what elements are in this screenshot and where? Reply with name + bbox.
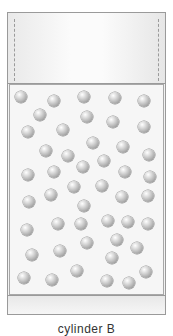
molecule xyxy=(143,149,155,161)
molecule xyxy=(140,266,152,278)
molecule xyxy=(46,274,58,286)
molecule xyxy=(71,265,83,277)
molecule xyxy=(144,171,156,183)
molecule xyxy=(111,234,123,246)
molecule xyxy=(138,121,150,133)
molecule xyxy=(57,124,69,136)
molecule xyxy=(22,169,34,181)
molecule xyxy=(119,166,131,178)
molecule xyxy=(116,191,128,203)
molecule xyxy=(96,180,108,192)
molecule xyxy=(40,145,52,157)
molecule xyxy=(62,150,74,162)
molecule xyxy=(77,161,89,173)
molecule xyxy=(48,95,60,107)
molecule xyxy=(81,237,93,249)
molecule xyxy=(101,275,113,287)
molecule xyxy=(15,91,27,103)
molecule xyxy=(87,137,99,149)
molecule xyxy=(52,218,64,230)
cylinder-base xyxy=(7,295,166,315)
molecule xyxy=(26,249,38,261)
molecule xyxy=(34,109,46,121)
molecule xyxy=(138,95,150,107)
molecule xyxy=(54,245,66,257)
piston-rail-left xyxy=(14,19,15,81)
molecule xyxy=(78,200,90,212)
molecule xyxy=(131,242,143,254)
molecule xyxy=(23,196,35,208)
molecule xyxy=(117,141,129,153)
piston-rail-right xyxy=(158,19,159,81)
molecule xyxy=(107,116,119,128)
piston xyxy=(7,12,166,84)
molecule xyxy=(102,215,114,227)
molecule xyxy=(123,277,135,289)
molecule xyxy=(106,252,118,264)
molecule xyxy=(68,181,80,193)
molecule xyxy=(109,92,121,104)
molecule xyxy=(78,91,90,103)
molecule xyxy=(75,218,87,230)
molecule xyxy=(22,126,34,138)
molecule xyxy=(142,190,154,202)
molecule xyxy=(21,224,33,236)
molecule xyxy=(18,272,30,284)
molecule xyxy=(142,218,154,230)
molecule xyxy=(122,216,134,228)
molecule xyxy=(81,111,93,123)
cylinder-label: cylinder B xyxy=(0,322,173,336)
molecule xyxy=(48,166,60,178)
molecule xyxy=(98,155,110,167)
molecule xyxy=(45,189,57,201)
